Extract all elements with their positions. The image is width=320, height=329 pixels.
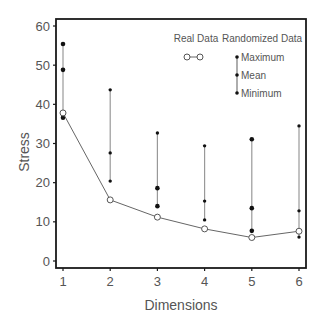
real-data-point xyxy=(202,226,208,232)
real-data-point xyxy=(60,110,66,116)
max-dot xyxy=(203,144,206,147)
min-dot xyxy=(203,218,206,221)
real-data-polyline xyxy=(63,113,299,238)
mean-dot xyxy=(61,68,66,73)
real-data-point xyxy=(154,214,160,220)
x-tick-label: 2 xyxy=(107,274,114,289)
y-tick-label: 50 xyxy=(36,58,50,73)
y-tick-label: 40 xyxy=(36,97,50,112)
x-tick-label: 5 xyxy=(248,274,255,289)
max-dot xyxy=(61,42,66,47)
min-dot xyxy=(155,204,160,209)
x-tick-label: 4 xyxy=(201,274,208,289)
mean-dot xyxy=(109,151,112,154)
legend-random-header: Randomized Data xyxy=(222,33,302,44)
real-data-line xyxy=(60,110,302,241)
max-dot xyxy=(109,88,112,91)
real-data-point xyxy=(249,235,255,241)
legend-real-header: Real Data xyxy=(174,33,219,44)
x-tick-label: 1 xyxy=(59,274,66,289)
x-axis-label: Dimensions xyxy=(144,297,217,313)
mean-dot xyxy=(203,199,206,202)
legend-mean-label: Mean xyxy=(241,70,266,81)
stress-dimensions-chart: 0102030405060 123456 Real Data Randomize… xyxy=(0,0,320,329)
y-tick-label: 0 xyxy=(43,254,50,269)
real-data-point xyxy=(296,228,302,234)
y-axis-label: Stress xyxy=(16,132,32,172)
legend-real-symbol xyxy=(184,54,203,60)
max-dot xyxy=(156,131,159,134)
y-tick-label: 30 xyxy=(36,136,50,151)
legend: Real Data Randomized Data Maximum Mean M… xyxy=(174,33,303,99)
y-axis: 0102030405060 xyxy=(36,19,56,269)
mean-dot xyxy=(250,206,255,211)
min-dot xyxy=(250,229,255,234)
legend-minimum-label: Minimum xyxy=(241,88,282,99)
x-tick-label: 3 xyxy=(154,274,161,289)
x-axis: 123456 xyxy=(59,268,302,289)
x-tick-label: 6 xyxy=(295,274,302,289)
legend-maximum-label: Maximum xyxy=(241,52,284,63)
mean-dot xyxy=(155,186,160,191)
y-tick-label: 20 xyxy=(36,175,50,190)
mean-dot xyxy=(297,209,300,212)
real-data-point xyxy=(107,197,113,203)
min-dot xyxy=(109,179,112,182)
y-tick-label: 60 xyxy=(36,19,50,34)
max-dot xyxy=(297,124,300,127)
legend-random-symbol xyxy=(235,55,239,95)
y-tick-label: 10 xyxy=(36,214,50,229)
min-dot xyxy=(297,235,300,238)
max-dot xyxy=(250,137,255,142)
